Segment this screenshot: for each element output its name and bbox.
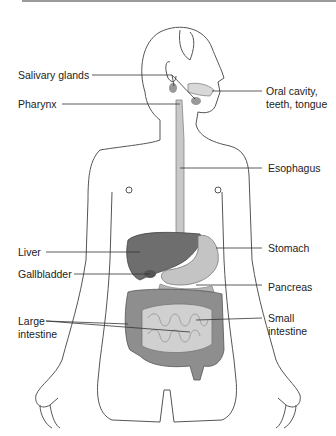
label-large-intestine-2: intestine xyxy=(18,328,57,340)
oral-cavity xyxy=(188,83,214,96)
salivary-gland-submandibular xyxy=(191,97,201,105)
label-pancreas: Pancreas xyxy=(268,281,312,293)
label-esophagus: Esophagus xyxy=(268,162,321,174)
small-intestine-organ xyxy=(142,304,212,353)
label-gallbladder: Gallbladder xyxy=(18,268,72,280)
label-pharynx: Pharynx xyxy=(18,98,57,110)
label-stomach: Stomach xyxy=(268,242,309,254)
nipple-left xyxy=(126,187,132,193)
salivary-gland-parotid xyxy=(169,83,177,93)
digestive-system-figure xyxy=(0,0,336,436)
label-liver: Liver xyxy=(18,246,41,258)
label-large-intestine-1: Large xyxy=(18,315,45,327)
label-small-intestine-2: intestine xyxy=(268,325,307,337)
body-outline xyxy=(36,27,301,428)
label-salivary-glands: Salivary glands xyxy=(18,69,89,81)
nipple-right xyxy=(215,187,221,193)
label-oral-cavity-2: teeth, tongue xyxy=(266,98,327,110)
label-oral-cavity-1: Oral cavity, xyxy=(266,85,318,97)
label-small-intestine-1: Small xyxy=(268,312,294,324)
